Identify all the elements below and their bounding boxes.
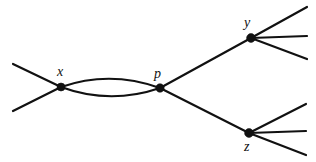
- vertex-label-z: z: [243, 139, 250, 154]
- vertex-dot-y: [247, 34, 256, 43]
- vertex-label-x: x: [56, 64, 64, 79]
- vertex-label-p: p: [153, 66, 161, 81]
- vertex-dot-z: [245, 129, 254, 138]
- vertex-dot-x: [57, 83, 65, 91]
- feynman-diagram-svg: x p y z: [0, 0, 316, 162]
- feynman-diagram-canvas: x p y z: [0, 0, 316, 162]
- vertex-dot-p: [156, 84, 164, 92]
- vertex-label-y: y: [242, 15, 251, 30]
